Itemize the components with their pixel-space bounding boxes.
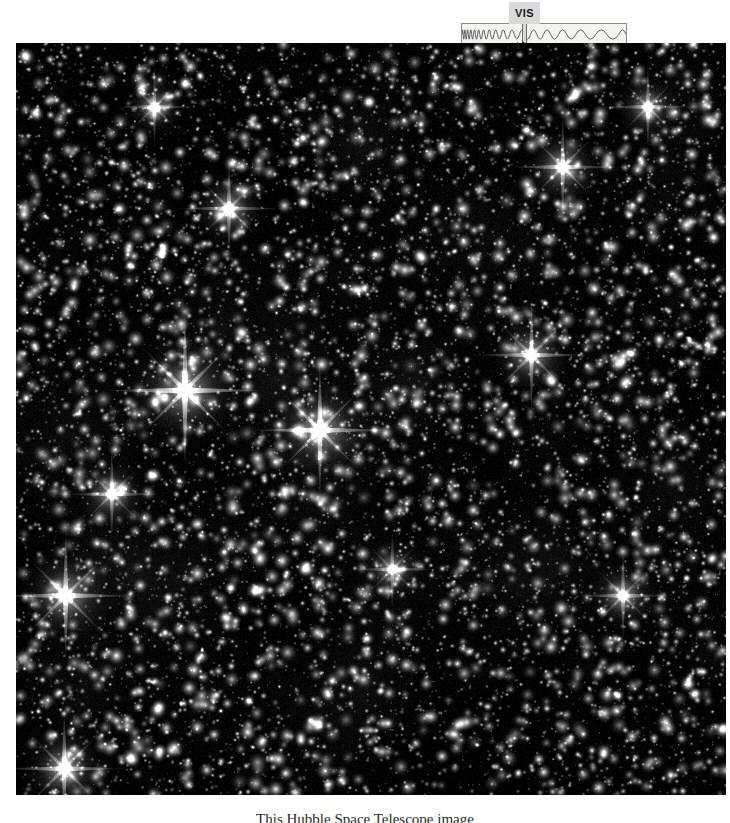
waveform-icon <box>462 24 626 45</box>
vis-marker-tab: VIS <box>509 2 540 24</box>
hubble-star-field-image <box>16 43 726 795</box>
figure-caption-text: This Hubble Space Telescope image <box>0 810 730 823</box>
page-root: VIS This Hubble Space Telescope image <box>0 0 730 823</box>
vis-label: VIS <box>515 8 534 19</box>
figure-caption: This Hubble Space Telescope image <box>0 810 730 823</box>
star-field-canvas <box>16 43 726 795</box>
electromagnetic-spectrum-indicator: VIS <box>461 0 627 46</box>
